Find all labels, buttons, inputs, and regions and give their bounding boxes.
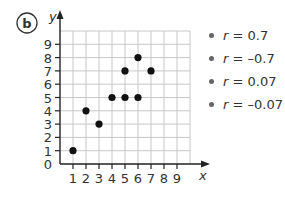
bullet-icon <box>209 79 214 84</box>
option-equals: = <box>228 51 247 66</box>
part-label: b <box>22 16 31 31</box>
option-value: 0.7 <box>248 28 269 43</box>
y-tick-label: 3 <box>44 117 52 132</box>
option-equals: = <box>228 97 247 112</box>
option-equals: = <box>228 28 247 43</box>
y-tick-label: 9 <box>44 37 52 52</box>
data-point <box>134 54 141 61</box>
x-tick-label: 1 <box>69 171 77 186</box>
data-point <box>121 94 128 101</box>
y-tick-label: 4 <box>44 104 52 119</box>
x-tick-label: 9 <box>173 171 181 186</box>
x-tick-label: 5 <box>121 171 129 186</box>
x-tick-label: 6 <box>134 171 142 186</box>
y-tick-label: 8 <box>44 51 52 66</box>
answer-option: r = 0.07 <box>206 74 283 97</box>
option-value: –0.7 <box>248 51 275 66</box>
y-tick-label: 6 <box>44 77 52 92</box>
data-point <box>108 94 115 101</box>
y-tick-label: 2 <box>44 130 52 145</box>
y-tick-label: 5 <box>44 91 52 106</box>
answer-options: r = 0.7r = –0.7r = 0.07r = –0.07 <box>206 28 283 120</box>
y-axis-label: y <box>48 9 57 24</box>
data-point <box>134 94 141 101</box>
data-point <box>82 107 89 114</box>
answer-option: r = –0.07 <box>206 97 283 120</box>
answer-option: r = 0.7 <box>206 28 283 51</box>
option-equals: = <box>228 74 247 89</box>
x-axis-label: x <box>198 168 207 183</box>
bullet-icon <box>209 56 214 61</box>
x-tick-label: 7 <box>147 171 155 186</box>
x-tick-label: 8 <box>160 171 168 186</box>
y-tick-label: 7 <box>44 64 52 79</box>
bullet-icon <box>209 102 214 107</box>
x-tick-label: 2 <box>82 171 90 186</box>
data-point <box>147 67 154 74</box>
y-tick-label: 0 <box>44 157 52 172</box>
data-point <box>121 67 128 74</box>
axes: yx <box>48 9 210 183</box>
option-value: 0.07 <box>248 74 277 89</box>
bullet-icon <box>209 33 214 38</box>
part-label-badge: b <box>17 13 37 33</box>
option-value: –0.07 <box>248 97 283 112</box>
x-tick-label: 3 <box>95 171 103 186</box>
y-tick-label: 1 <box>44 144 52 159</box>
data-point <box>95 121 102 128</box>
answer-option: r = –0.7 <box>206 51 283 74</box>
data-point <box>69 147 76 154</box>
x-tick-label: 4 <box>108 171 116 186</box>
